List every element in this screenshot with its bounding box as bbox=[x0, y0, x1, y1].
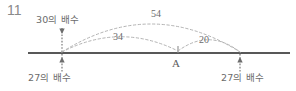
left-point-tick-below bbox=[59, 54, 64, 72]
arc-54-path bbox=[62, 24, 240, 52]
arc-label-34: 34 bbox=[113, 32, 123, 42]
problem-number: 11 bbox=[7, 3, 22, 17]
left-point-tick-above bbox=[59, 28, 64, 52]
middle-point-label: A bbox=[172, 58, 180, 69]
arc-label-54: 54 bbox=[151, 9, 161, 19]
right-point-tick-below bbox=[237, 54, 242, 72]
left-point-label-below: 27의 배수 bbox=[28, 73, 71, 83]
left-point-label-above: 30의 배수 bbox=[36, 15, 79, 25]
arc-label-20: 20 bbox=[199, 35, 209, 45]
arc-20-path bbox=[178, 40, 240, 52]
right-point-label-below: 27의 배수 bbox=[221, 73, 264, 83]
number-line-figure: 11 30의 배수 27의 배수 27의 배수 A 54 34 20 bbox=[0, 0, 296, 91]
